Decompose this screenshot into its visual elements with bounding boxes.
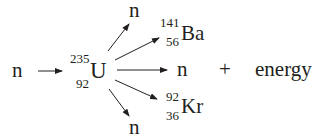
- middle-neutron: n: [177, 59, 188, 80]
- arrow-to-top-neutron: [108, 24, 129, 51]
- arrow-to-krypton: [115, 80, 157, 99]
- uranium-atomic-number: 92: [76, 77, 89, 90]
- krypton-symbol: Kr: [181, 96, 203, 117]
- top-neutron: n: [129, 0, 140, 21]
- arrow-to-bottom-neutron: [109, 89, 129, 116]
- krypton-atomic-number: 36: [166, 109, 179, 122]
- arrow-to-barium: [115, 38, 159, 60]
- incoming-neutron: n: [12, 60, 23, 81]
- barium-atomic-number: 56: [166, 35, 179, 48]
- krypton-mass-number: 92: [166, 90, 179, 103]
- barium-symbol: Ba: [181, 23, 204, 44]
- plus-sign: +: [219, 59, 231, 80]
- bottom-neutron: n: [129, 117, 140, 137]
- uranium-mass-number: 235: [70, 52, 90, 65]
- uranium-symbol: U: [90, 59, 107, 82]
- energy-label: energy: [255, 59, 312, 80]
- barium-mass-number: 141: [160, 16, 180, 29]
